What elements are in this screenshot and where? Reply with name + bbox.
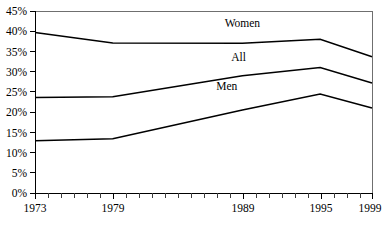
y-tick-label-40: 40% xyxy=(6,25,28,37)
x-tick-labels: 1973 1979 1989 1995 1999 xyxy=(24,202,382,214)
series-label-men: Men xyxy=(216,80,237,92)
series-label-all: All xyxy=(231,51,246,63)
y-tick-label-5: 5% xyxy=(12,167,28,179)
x-tick-label-1979: 1979 xyxy=(102,202,125,214)
y-tick-label-20: 20% xyxy=(6,106,28,118)
y-tick-label-0: 0% xyxy=(12,187,28,199)
y-tick-marks xyxy=(30,11,35,193)
plot-frame xyxy=(35,11,372,193)
series-label-women: Women xyxy=(225,17,261,29)
y-tick-label-10: 10% xyxy=(6,147,28,159)
series-labels: Women All Men xyxy=(216,17,260,92)
y-tick-label-25: 25% xyxy=(6,86,28,98)
y-tick-label-15: 15% xyxy=(6,127,28,139)
x-tick-label-1989: 1989 xyxy=(232,202,255,214)
line-chart: 45% 40% 35% 30% 25% 20% 15% 10% 5% 0% xyxy=(0,0,387,230)
y-tick-labels: 45% 40% 35% 30% 25% 20% 15% 10% 5% 0% xyxy=(6,5,28,199)
x-tick-label-1999: 1999 xyxy=(359,202,382,214)
data-series-group xyxy=(35,32,372,140)
y-tick-label-30: 30% xyxy=(6,66,28,78)
chart-canvas: 45% 40% 35% 30% 25% 20% 15% 10% 5% 0% xyxy=(0,0,387,230)
x-minor-tick-marks xyxy=(48,193,360,198)
series-line-all xyxy=(35,68,372,98)
x-tick-label-1973: 1973 xyxy=(24,202,47,214)
series-line-women xyxy=(35,32,372,56)
x-tick-label-1995: 1995 xyxy=(310,202,333,214)
series-line-men xyxy=(35,94,372,141)
y-tick-label-45: 45% xyxy=(6,5,28,17)
y-tick-label-35: 35% xyxy=(6,46,28,58)
